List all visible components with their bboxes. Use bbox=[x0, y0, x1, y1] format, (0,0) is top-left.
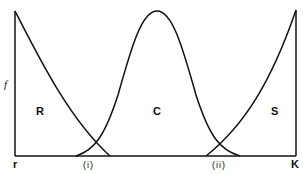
x-axis-left-label: r bbox=[13, 159, 17, 170]
intersection-label-i: (i) bbox=[83, 161, 94, 170]
region-label-c: C bbox=[153, 106, 161, 117]
region-label-s: S bbox=[271, 106, 278, 117]
intersection-label-ii: (ii) bbox=[212, 161, 226, 170]
c-curve bbox=[76, 11, 240, 156]
x-axis-right-label: K bbox=[291, 159, 299, 170]
y-axis-label: f bbox=[4, 79, 7, 90]
region-label-r: R bbox=[36, 106, 44, 117]
diagram-canvas bbox=[0, 0, 303, 175]
r-curve bbox=[15, 11, 110, 156]
s-curve bbox=[206, 10, 296, 156]
